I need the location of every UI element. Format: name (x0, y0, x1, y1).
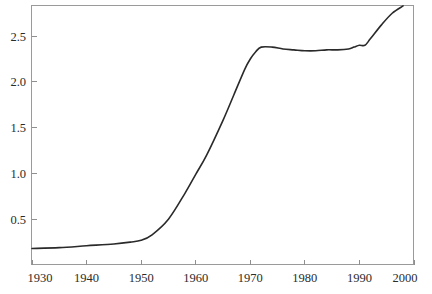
x-tick-label: 1970 (238, 271, 263, 285)
line-chart: 0.51.01.52.02.5 193019401950196019701980… (0, 0, 432, 294)
x-tick-label: 1940 (74, 271, 99, 285)
plot-frame (32, 6, 414, 265)
x-tick-label: 1950 (129, 271, 154, 285)
y-tick-label: 0.5 (10, 213, 26, 227)
y-tick-label: 2.5 (10, 30, 26, 44)
y-axis-tick-labels: 0.51.01.52.02.5 (10, 30, 26, 227)
x-tick-label: 1960 (183, 271, 208, 285)
x-tick-label: 1980 (292, 271, 317, 285)
y-tick-label: 1.5 (10, 121, 26, 135)
x-tick-label: 1990 (347, 271, 372, 285)
data-series-layer (32, 6, 403, 249)
chart-container: 0.51.01.52.02.5 193019401950196019701980… (0, 0, 432, 294)
y-tick-label: 1.0 (10, 167, 26, 181)
y-tick-label: 2.0 (10, 75, 26, 89)
x-tick-label: 1930 (28, 271, 53, 285)
y-axis-ticks (32, 36, 37, 219)
x-axis-tick-labels: 19301940195019601970198019902000 (28, 271, 418, 285)
x-tick-label: 2000 (393, 271, 418, 285)
data-line-series-1 (32, 6, 403, 249)
